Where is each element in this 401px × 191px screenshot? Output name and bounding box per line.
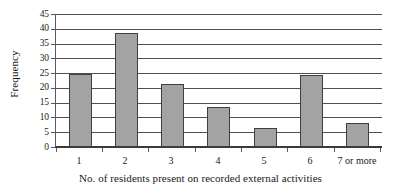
y-tick-25 [51,73,56,74]
gridline-35 [56,44,382,45]
gridline-30 [56,58,382,59]
y-tick-label-30: 30 [9,54,49,63]
bar-category-6 [300,75,323,147]
y-tick-30 [51,58,56,59]
y-tick-35 [51,44,56,45]
x-tick-0 [56,148,57,152]
y-tick-5 [51,132,56,133]
y-tick-45 [51,14,56,15]
y-tick-40 [51,29,56,30]
x-tick-2 [148,148,149,152]
y-tick-20 [51,88,56,89]
y-tick-label-45: 45 [9,10,49,19]
gridline-25 [56,73,382,74]
x-tick-label-7: 7 or more [322,155,392,167]
x-tick-6 [334,148,335,152]
x-axis-title: No. of residents present on recorded ext… [0,172,401,185]
bar-chart-figure: Frequency 45 40 35 30 25 20 15 10 5 0 [0,0,401,191]
x-axis-line [55,147,382,148]
y-tick-10 [51,117,56,118]
gridline-20 [56,88,382,89]
x-tick-1 [102,148,103,152]
x-tick-7 [380,148,381,152]
y-tick-label-10: 10 [9,113,49,122]
y-tick-label-40: 40 [9,24,49,33]
bar-category-3 [161,84,184,147]
bar-category-2 [115,33,138,147]
bar-category-4 [207,107,230,147]
y-tick-label-5: 5 [9,128,49,137]
y-tick-label-15: 15 [9,98,49,107]
gridline-40 [56,29,382,30]
gridline-45 [56,14,382,15]
plot-area [56,14,382,147]
bar-category-5 [254,128,277,147]
y-tick-label-0: 0 [9,143,49,152]
x-tick-4 [241,148,242,152]
y-tick-label-35: 35 [9,39,49,48]
y-tick-label-20: 20 [9,83,49,92]
gridline-15 [56,103,382,104]
bar-category-7 [346,123,369,147]
y-tick-15 [51,103,56,104]
bar-category-1 [69,74,92,147]
x-tick-5 [287,148,288,152]
x-tick-3 [195,148,196,152]
y-axis-line [55,14,56,148]
y-tick-label-25: 25 [9,69,49,78]
